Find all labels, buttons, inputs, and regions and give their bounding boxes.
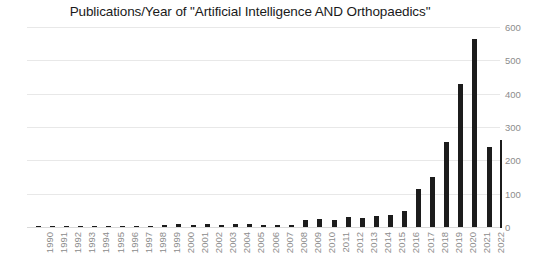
- bar[interactable]: [402, 211, 407, 227]
- plot-area: [27, 27, 500, 227]
- x-axis-tick: 1991: [45, 230, 59, 274]
- bar-slot: [299, 27, 313, 227]
- x-axis-tick: 2021: [468, 230, 482, 274]
- y-axis-spine: [500, 140, 502, 228]
- bar-slot: [327, 27, 341, 227]
- bar-slot: [412, 27, 426, 227]
- bar[interactable]: [289, 225, 294, 227]
- bar[interactable]: [162, 225, 167, 227]
- bar-slot: [228, 27, 242, 227]
- bar[interactable]: [388, 215, 393, 227]
- x-axis-tick: 2001: [186, 230, 200, 274]
- bar-slot: [186, 27, 200, 227]
- bar[interactable]: [233, 224, 238, 227]
- bar[interactable]: [64, 226, 69, 227]
- y-axis-tick-label: 200: [505, 155, 535, 166]
- gridline: [27, 227, 500, 228]
- bar[interactable]: [430, 177, 435, 227]
- y-axis-tick-label: 300: [505, 122, 535, 133]
- x-axis-tick: 2013: [355, 230, 369, 274]
- x-axis-tick: 2005: [242, 230, 256, 274]
- bar[interactable]: [487, 147, 492, 227]
- bar-series: [27, 27, 500, 227]
- x-axis-tick: 1998: [144, 230, 158, 274]
- bar-slot: [383, 27, 397, 227]
- x-axis-tick: 2007: [271, 230, 285, 274]
- bar-slot: [482, 27, 496, 227]
- x-axis-tick: 1994: [87, 230, 101, 274]
- bar-slot: [355, 27, 369, 227]
- x-axis-tick: 2010: [313, 230, 327, 274]
- bar[interactable]: [50, 226, 55, 227]
- bar[interactable]: [472, 39, 477, 227]
- bar[interactable]: [176, 224, 181, 227]
- y-axis-tick-label: 500: [505, 55, 535, 66]
- x-axis-tick: 2004: [228, 230, 242, 274]
- bar-slot: [285, 27, 299, 227]
- bar-slot: [130, 27, 144, 227]
- x-axis-tick: 2000: [172, 230, 186, 274]
- x-axis-tick: 2009: [299, 230, 313, 274]
- bar-slot: [257, 27, 271, 227]
- bar-slot: [369, 27, 383, 227]
- y-axis-tick-label: 400: [505, 88, 535, 99]
- bar[interactable]: [332, 220, 337, 227]
- bar-slot: [172, 27, 186, 227]
- y-axis: 6005004003002001000: [505, 27, 539, 227]
- bar-slot: [158, 27, 172, 227]
- x-axis-tick: 1996: [116, 230, 130, 274]
- x-axis: 1990199119921993199419951996199719981999…: [27, 230, 500, 274]
- bar-slot: [426, 27, 440, 227]
- bar[interactable]: [148, 226, 153, 227]
- bar-slot: [31, 27, 45, 227]
- bar[interactable]: [205, 224, 210, 227]
- bar[interactable]: [346, 217, 351, 227]
- x-axis-tick: 2006: [257, 230, 271, 274]
- x-axis-tick: 1999: [158, 230, 172, 274]
- y-axis-tick-label: 0: [505, 222, 535, 233]
- bar-slot: [87, 27, 101, 227]
- bar[interactable]: [374, 216, 379, 227]
- bar[interactable]: [261, 225, 266, 227]
- x-axis-tick-label: 2022: [495, 232, 506, 253]
- bar[interactable]: [106, 226, 111, 227]
- bar[interactable]: [36, 226, 41, 227]
- bar-slot: [242, 27, 256, 227]
- chart-title: Publications/Year of "Artificial Intelli…: [0, 4, 500, 19]
- bar-slot: [59, 27, 73, 227]
- bar-slot: [200, 27, 214, 227]
- y-axis-tick-label: 600: [505, 22, 535, 33]
- bar[interactable]: [360, 218, 365, 227]
- x-axis-tick: 2003: [214, 230, 228, 274]
- x-axis-tick: 2020: [454, 230, 468, 274]
- bar[interactable]: [444, 142, 449, 227]
- bar-slot: [468, 27, 482, 227]
- bar[interactable]: [78, 226, 83, 227]
- x-axis-tick: 2016: [397, 230, 411, 274]
- bar[interactable]: [92, 226, 97, 227]
- bar-slot: [101, 27, 115, 227]
- x-axis-tick: 1993: [73, 230, 87, 274]
- x-axis-tick: 1997: [130, 230, 144, 274]
- bar[interactable]: [303, 220, 308, 227]
- x-axis-tick: 2011: [327, 230, 341, 274]
- bar[interactable]: [219, 225, 224, 227]
- y-axis-tick-label: 100: [505, 188, 535, 199]
- bar[interactable]: [317, 219, 322, 227]
- bar[interactable]: [275, 225, 280, 227]
- bar[interactable]: [247, 224, 252, 227]
- bar[interactable]: [416, 189, 421, 227]
- x-axis-tick: 2002: [200, 230, 214, 274]
- bar-slot: [116, 27, 130, 227]
- bar[interactable]: [191, 225, 196, 227]
- bar[interactable]: [120, 226, 125, 227]
- x-axis-tick: 2022: [482, 230, 496, 274]
- x-axis-tick: 2014: [369, 230, 383, 274]
- bar-slot: [313, 27, 327, 227]
- x-axis-tick: 2017: [412, 230, 426, 274]
- bar[interactable]: [134, 226, 139, 227]
- x-axis-tick: 2008: [285, 230, 299, 274]
- bar-slot: [397, 27, 411, 227]
- bar[interactable]: [458, 84, 463, 227]
- bar-chart: Publications/Year of "Artificial Intelli…: [0, 0, 539, 276]
